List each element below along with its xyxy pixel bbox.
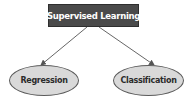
root-node-label: Supervised Learning — [47, 11, 140, 21]
edge-to-classification-arrow — [99, 27, 154, 65]
root-node-supervised-learning: Supervised Learning — [48, 4, 139, 27]
child-node-label: Regression — [20, 76, 67, 85]
child-node-label: Classification — [120, 76, 176, 85]
supervised-learning-diagram: Supervised Learning Regression Classific… — [0, 0, 193, 105]
child-node-regression: Regression — [9, 65, 79, 96]
edge-to-regression-arrow — [41, 27, 87, 65]
child-node-classification: Classification — [113, 65, 184, 96]
